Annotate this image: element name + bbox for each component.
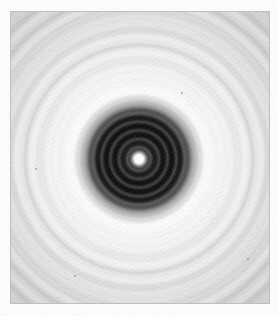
dark-central-disc xyxy=(11,12,269,303)
bright-halo-ring xyxy=(11,12,269,303)
dust-speck xyxy=(35,168,37,170)
photo-base-tone xyxy=(11,12,269,303)
film-grain-texture xyxy=(11,12,269,303)
outer-fringe-rings xyxy=(11,12,269,303)
dust-speck xyxy=(181,92,183,94)
dust-speck xyxy=(74,275,76,277)
photo-caption: Photograph of a concentric ring diffract… xyxy=(11,12,12,13)
diffraction-photograph: Photograph of a concentric ring diffract… xyxy=(11,12,269,303)
mid-fringe-rings xyxy=(11,12,269,303)
central-bright-spot xyxy=(11,12,269,303)
dust-speck xyxy=(247,258,249,260)
dust-speck-layer xyxy=(11,12,269,303)
print-vignette xyxy=(11,12,269,303)
core-concentric-rings xyxy=(11,12,269,303)
page-canvas: Photograph of a concentric ring diffract… xyxy=(0,0,278,316)
